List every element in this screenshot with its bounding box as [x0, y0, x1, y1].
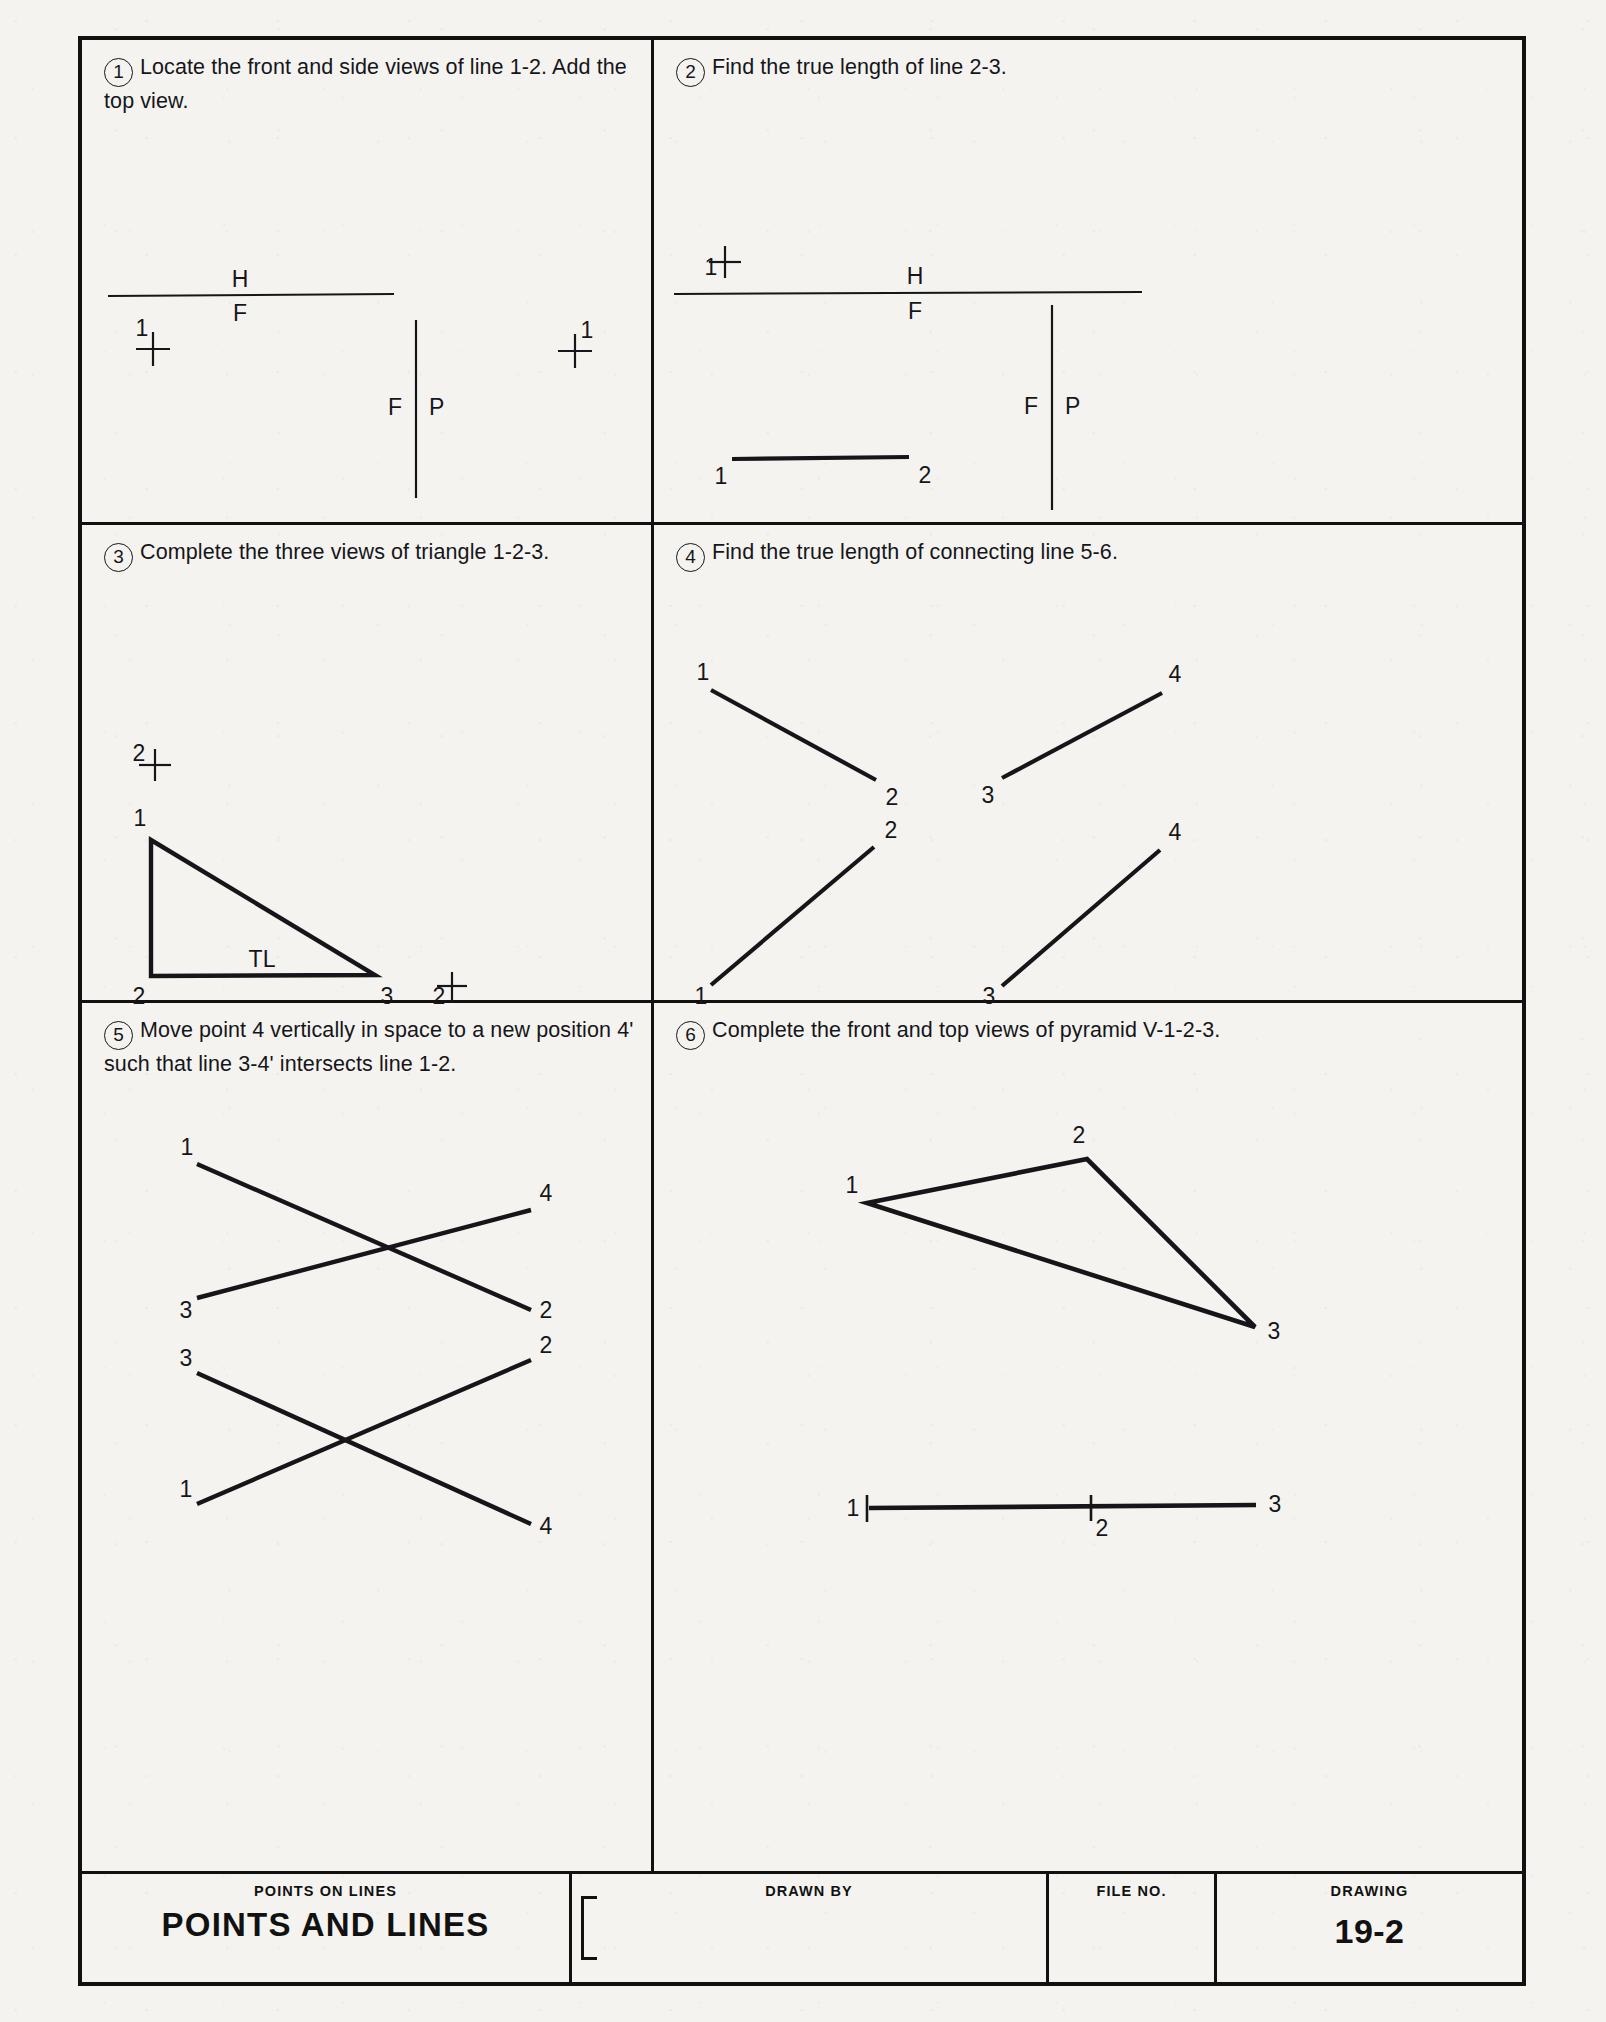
titleblock-drawn-by-cell[interactable]: DRAWN BY	[569, 1874, 1046, 1982]
line-1-2-front	[711, 847, 874, 985]
problem-cell-3: 3Complete the three views of triangle 1-…	[82, 525, 651, 1000]
label-front-3: 3	[1269, 1491, 1282, 1517]
label-true-length: TL	[249, 946, 276, 972]
titleblock-subject-cell: POINTS ON LINES POINTS AND LINES	[82, 1874, 569, 1982]
drawing-frame: 1Locate the front and side views of line…	[78, 36, 1526, 1986]
line-3-4-front	[1002, 850, 1160, 986]
line-1-2-front	[732, 457, 909, 459]
label-bot-3: 3	[180, 1345, 193, 1371]
problem-cell-4: 4Find the true length of connecting line…	[654, 525, 1523, 1000]
label-point-2-front: 2	[919, 462, 932, 488]
problem-cell-6: 6Complete the front and top views of pyr…	[654, 1003, 1523, 1579]
label-point-2-top: 2	[133, 740, 146, 766]
label-fp-p: P	[1065, 393, 1080, 419]
triangle-1-2-3-top	[867, 1159, 1255, 1327]
label-bot-4: 4	[540, 1513, 553, 1539]
label-fp-p: P	[429, 394, 444, 420]
drawn-by-label: DRAWN BY	[572, 1883, 1046, 1899]
label-top-1: 1	[697, 659, 710, 685]
label-front-1: 1	[847, 1495, 860, 1521]
drawing-number: 19-2	[1217, 1912, 1522, 1951]
problem-3-drawing: 2 1 2 3 TL 2	[82, 525, 651, 1000]
label-fp-f: F	[1024, 393, 1038, 419]
label-front-2: 2	[1096, 1515, 1109, 1541]
line-3-4-front	[197, 1373, 531, 1524]
label-top-3: 3	[1268, 1318, 1281, 1344]
label-point-1-left: 1	[136, 315, 149, 341]
subject-title: POINTS AND LINES	[82, 1906, 569, 1944]
label-f: F	[908, 298, 922, 324]
label-point-1-right: 1	[581, 317, 594, 343]
line-1-2-front	[197, 1360, 531, 1504]
label-top-4: 4	[540, 1180, 553, 1206]
label-top-3: 3	[982, 782, 995, 808]
line-3-4-top	[197, 1210, 531, 1298]
label-bot-2: 2	[885, 817, 898, 843]
problem-5-drawing: 1 2 3 4 2 1 3 4	[82, 1003, 651, 1579]
problem-cell-1: 1Locate the front and side views of line…	[82, 40, 651, 522]
subject-label: POINTS ON LINES	[82, 1883, 569, 1899]
problem-2-drawing: H F 1 F P 1 2	[654, 40, 1523, 522]
line-1-2-top	[711, 690, 876, 780]
problem-1-drawing: H F F P 1 1	[82, 40, 651, 522]
label-h: H	[232, 266, 249, 292]
label-f: F	[233, 300, 247, 326]
drawn-by-bracket	[581, 1896, 597, 1960]
label-top-4: 4	[1169, 661, 1182, 687]
label-top-1: 1	[846, 1172, 859, 1198]
titleblock-file-no-cell[interactable]: FILE NO.	[1046, 1874, 1214, 1982]
line-1-2-top	[197, 1164, 531, 1310]
label-bot-4: 4	[1169, 819, 1182, 845]
drawing-label: DRAWING	[1217, 1883, 1522, 1899]
label-bot-1: 1	[180, 1476, 193, 1502]
file-no-label: FILE NO.	[1049, 1883, 1214, 1899]
label-fp-f: F	[388, 394, 402, 420]
title-block: POINTS ON LINES POINTS AND LINES DRAWN B…	[82, 1874, 1522, 1982]
worksheet-sheet: 1Locate the front and side views of line…	[0, 0, 1606, 2022]
label-top-1: 1	[181, 1134, 194, 1160]
label-top-2: 2	[886, 784, 899, 810]
label-top-2: 2	[1073, 1122, 1086, 1148]
line-1-3-front	[869, 1505, 1256, 1508]
label-top-3: 3	[180, 1297, 193, 1323]
label-bot-2: 2	[540, 1332, 553, 1358]
problem-cell-5: 5Move point 4 vertically in space to a n…	[82, 1003, 651, 1579]
problem-4-drawing: 1 2 3 4 2 1 3 4	[654, 525, 1523, 1000]
label-point-1: 1	[134, 805, 147, 831]
problem-cell-2: 2Find the true length of line 2-3. H F 1…	[654, 40, 1523, 522]
label-top-2: 2	[540, 1297, 553, 1323]
titleblock-drawing-cell: DRAWING 19-2	[1214, 1874, 1522, 1982]
label-h: H	[907, 263, 924, 289]
line-3-4-top	[1002, 693, 1162, 778]
problem-6-drawing: 1 2 3 1 2 3	[654, 1003, 1523, 1579]
label-point-1-top: 1	[705, 254, 718, 280]
label-point-1-front: 1	[715, 463, 728, 489]
